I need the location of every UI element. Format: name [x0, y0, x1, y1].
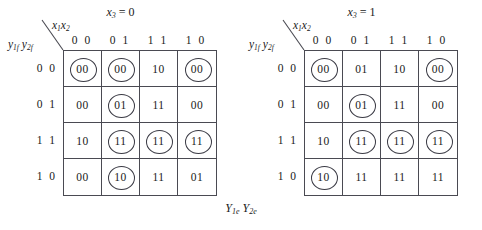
kmap-cell: 10 [140, 51, 178, 87]
column-header: 0 1 [343, 34, 381, 46]
kmap-cell: 11 [140, 87, 178, 123]
column-header: 1 0 [419, 34, 457, 46]
row-header: 1 0 [30, 158, 60, 194]
row-header: 1 1 [30, 122, 60, 158]
kmap-cell: 11 [140, 123, 178, 159]
kmap-cell: 10 [381, 51, 419, 87]
col-var-x2-sub: 2 [66, 24, 70, 33]
kmap-cell: 00 [64, 87, 102, 123]
kmap-cell: 11 [343, 123, 381, 159]
column-header: 1 1 [381, 34, 419, 46]
kmap-cell: 10 [64, 123, 102, 159]
caption-y2-sub: 2e [249, 207, 257, 216]
kmap-cell: 00 [178, 51, 216, 87]
kmap-cell: 00 [64, 51, 102, 87]
kmap-cell: 11 [381, 87, 419, 123]
kmap-cell: 10 [305, 159, 343, 195]
row-header: 0 1 [30, 86, 60, 122]
caption-y1: Y [225, 201, 232, 215]
kmap-cell: 11 [381, 123, 419, 159]
kmap-cell: 00 [102, 51, 140, 87]
row-var-y1-sub: 1f [254, 43, 260, 52]
kmap-cell: 00 [64, 159, 102, 195]
column-headers-left: 0 0 0 1 1 1 1 0 [64, 34, 216, 46]
col-var-x2-sub: 2 [307, 24, 311, 33]
column-header: 0 0 [305, 34, 343, 46]
kmap-grid-left: 00 00 10 00 00 01 11 00 10 11 11 11 00 1… [63, 50, 217, 196]
row-headers-left: 0 0 0 1 1 1 1 0 [30, 50, 60, 194]
row-var-y1-sub: 1f [13, 43, 19, 52]
column-headers-right: 0 0 0 1 1 1 1 0 [305, 34, 457, 46]
kmap-title-right-equation: = 1 [357, 5, 376, 19]
caption-y1-sub: 1e [232, 207, 240, 216]
kmap-x3-equals-0: x3 = 0 x1x2 y1f y2f 0 0 0 1 1 1 1 0 0 0 … [0, 0, 241, 230]
kmap-cell: 11 [419, 123, 457, 159]
column-header: 0 0 [64, 34, 102, 46]
kmap-cell: 00 [419, 51, 457, 87]
column-header: 1 1 [140, 34, 178, 46]
column-variable-label-right: x1x2 [293, 19, 311, 33]
kmap-title-left-equation: = 0 [116, 5, 135, 19]
kmap-cell: 11 [343, 159, 381, 195]
kmap-grid-right: 00 01 10 00 00 01 11 00 10 11 11 11 10 1… [304, 50, 458, 196]
figure-caption: Y1e Y2e [0, 201, 482, 216]
kmap-cell: 00 [305, 51, 343, 87]
kmap-cell: 11 [102, 123, 140, 159]
kmap-cell: 00 [305, 87, 343, 123]
row-header: 0 1 [271, 86, 301, 122]
column-variable-label-left: x1x2 [52, 19, 70, 33]
row-header: 1 1 [271, 122, 301, 158]
kmap-x3-equals-1: x3 = 1 x1x2 y1f y2f 0 0 0 1 1 1 1 0 0 0 … [241, 0, 482, 230]
column-header: 1 0 [178, 34, 216, 46]
kmap-cell: 01 [343, 87, 381, 123]
row-header: 0 0 [30, 50, 60, 86]
column-header: 0 1 [102, 34, 140, 46]
kmap-cell: 11 [419, 159, 457, 195]
kmap-cell: 10 [305, 123, 343, 159]
kmap-cell: 11 [178, 123, 216, 159]
kmap-cell: 11 [140, 159, 178, 195]
kmap-cell: 11 [381, 159, 419, 195]
kmap-cell: 00 [419, 87, 457, 123]
kmap-cell: 00 [178, 87, 216, 123]
kmap-cell: 01 [178, 159, 216, 195]
row-header: 1 0 [271, 158, 301, 194]
row-header: 0 0 [271, 50, 301, 86]
kmap-cell: 01 [343, 51, 381, 87]
kmap-cell: 10 [102, 159, 140, 195]
row-headers-right: 0 0 0 1 1 1 1 0 [271, 50, 301, 194]
kmap-cell: 01 [102, 87, 140, 123]
